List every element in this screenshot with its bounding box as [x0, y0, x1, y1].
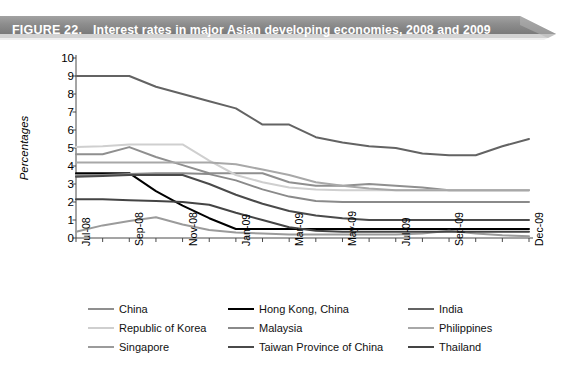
y-tick-label: 10 [52, 53, 74, 63]
legend-row: SingaporeTaiwan Province of ChinaThailan… [0, 341, 564, 358]
legend-label: China [119, 303, 148, 315]
line-plot [0, 46, 564, 304]
legend-item[interactable]: Singapore [88, 341, 169, 353]
legend-label: Republic of Korea [119, 322, 206, 334]
legend-color-swatch [408, 308, 434, 310]
figure-banner: FIGURE 22. Interest rates in major Asian… [0, 8, 564, 42]
x-tick-label: Mar-09 [293, 213, 305, 246]
y-tick-label: 6 [52, 125, 74, 135]
legend-label: Malaysia [259, 322, 302, 334]
legend-item[interactable]: India [408, 303, 463, 315]
x-tick-label: Jul-08 [80, 217, 92, 246]
x-tick-label: Jan-09 [240, 214, 252, 246]
y-tick-label: 3 [52, 179, 74, 189]
legend-label: Hong Kong, China [259, 303, 349, 315]
y-tick-label: 0 [52, 233, 74, 243]
legend-label: Philippines [439, 322, 492, 334]
x-tick-label: Dec-09 [533, 212, 545, 246]
legend-color-swatch [228, 308, 254, 310]
legend-label: India [439, 303, 463, 315]
x-tick-label: Nov-08 [187, 212, 199, 246]
y-tick-label: 2 [52, 197, 74, 207]
legend-color-swatch [88, 308, 114, 310]
legend-row: Republic of KoreaMalaysiaPhilippines [0, 322, 564, 339]
banner-shape [0, 8, 564, 50]
legend-label: Thailand [439, 341, 481, 353]
chart-legend: ChinaHong Kong, ChinaIndiaRepublic of Ko… [0, 303, 564, 363]
y-tick-label: 1 [52, 215, 74, 225]
x-tick-label: Jul-09 [400, 217, 412, 246]
legend-color-swatch [408, 346, 434, 348]
legend-label: Taiwan Province of China [259, 341, 383, 353]
legend-item[interactable]: Thailand [408, 341, 481, 353]
series-line [76, 162, 529, 190]
x-tick-label: Sep-09 [453, 212, 465, 246]
series-line [76, 76, 529, 155]
legend-item[interactable]: Malaysia [228, 322, 302, 334]
chart-container: Percentages 012345678910 Jul-08Sep-08Nov… [0, 46, 564, 304]
y-tick-label: 7 [52, 107, 74, 117]
y-tick-label: 9 [52, 71, 74, 81]
y-tick-label: 8 [52, 89, 74, 99]
legend-item[interactable]: Republic of Korea [88, 322, 206, 334]
legend-label: Singapore [119, 341, 169, 353]
x-tick-label: May-09 [346, 211, 358, 246]
y-axis-title: Percentages [18, 88, 30, 208]
legend-item[interactable]: Hong Kong, China [228, 303, 349, 315]
legend-color-swatch [228, 327, 254, 329]
legend-item[interactable]: Philippines [408, 322, 492, 334]
y-tick-label: 5 [52, 143, 74, 153]
legend-color-swatch [88, 346, 114, 348]
x-tick-label: Sep-08 [133, 212, 145, 246]
legend-item[interactable]: Taiwan Province of China [228, 341, 383, 353]
legend-color-swatch [228, 346, 254, 348]
y-tick-label: 4 [52, 161, 74, 171]
legend-row: ChinaHong Kong, ChinaIndia [0, 303, 564, 320]
legend-item[interactable]: China [88, 303, 148, 315]
legend-color-swatch [408, 327, 434, 329]
legend-color-swatch [88, 327, 114, 329]
y-axis-tick-labels: 012345678910 [52, 46, 74, 238]
